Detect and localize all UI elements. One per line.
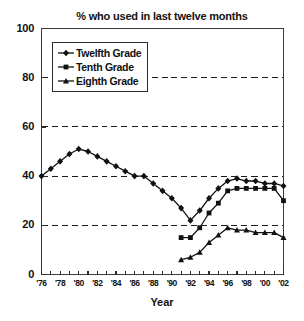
legend-item-label: Tenth Grade <box>75 61 134 73</box>
y-tick-label: 100 <box>4 22 34 34</box>
y-tick-label: 60 <box>4 120 34 132</box>
legend-item-label: Twelfth Grade <box>75 47 141 59</box>
gridlines <box>42 78 284 226</box>
series-twelfth-grade <box>39 146 287 224</box>
triangle-marker-icon <box>57 75 75 87</box>
legend-item-eighth-grade: Eighth Grade <box>57 74 141 88</box>
x-tick-label: '02 <box>273 278 295 288</box>
series-tenth-grade <box>179 186 286 240</box>
data-series-layer <box>39 146 287 262</box>
x-axis-title: Year <box>41 296 283 308</box>
legend-item-twelfth-grade: Twelfth Grade <box>57 46 141 60</box>
y-tick-label: 0 <box>4 268 34 280</box>
plot-area <box>0 0 304 321</box>
chart-legend: Twelfth GradeTenth GradeEighth Grade <box>52 42 148 92</box>
square-marker-icon <box>57 61 75 73</box>
chart-figure: % who used in last twelve months 0204060… <box>0 0 304 321</box>
legend-item-label: Eighth Grade <box>75 75 138 87</box>
series-eighth-grade <box>178 225 286 262</box>
y-tick-label: 80 <box>4 71 34 83</box>
diamond-marker-icon <box>57 47 75 59</box>
legend-item-tenth-grade: Tenth Grade <box>57 60 141 74</box>
x-axis-ticks <box>42 271 284 275</box>
y-tick-label: 20 <box>4 218 34 230</box>
y-tick-label: 40 <box>4 169 34 181</box>
